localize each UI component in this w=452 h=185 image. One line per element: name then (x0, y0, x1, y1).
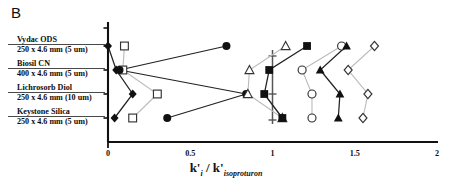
figure-panel-b: B Vydac ODS 250 x 4.6 mm (5 um) Biosil C… (0, 0, 452, 185)
x-axis-tick-label-2: 2 (435, 149, 439, 158)
x-axis-tick-label-0: 0 (106, 149, 110, 158)
x-axis-subscript-i: i (200, 169, 202, 178)
x-axis-subscript-isoproturon: isoproturon (224, 169, 263, 178)
x-axis-tick-label-1-5: 1.5 (350, 149, 360, 158)
x-axis-title: k'i / k'isoproturon (0, 158, 452, 178)
x-axis-tick-label-0-5: 0.5 (185, 149, 195, 158)
x-axis-k-denominator: k' (213, 160, 224, 175)
x-axis-title-text: k'i / k'isoproturon (190, 160, 263, 175)
x-axis-k-numerator: k' (190, 160, 201, 175)
x-axis-tick-label-1: 1 (270, 149, 274, 158)
x-axis-slash: / (206, 160, 210, 175)
